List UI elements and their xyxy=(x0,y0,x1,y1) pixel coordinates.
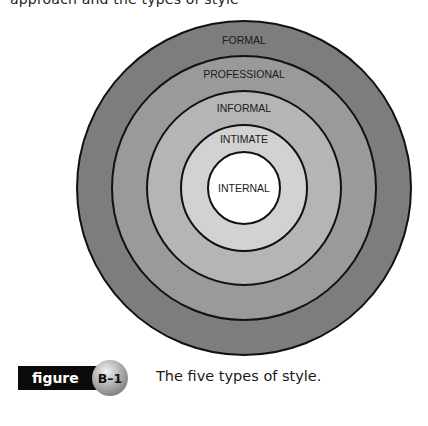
ring-label-informal: INFORMAL xyxy=(217,102,271,114)
ring-label-formal: FORMAL xyxy=(222,34,266,46)
figure-number-badge: B–1 xyxy=(92,360,128,396)
figure-number: B–1 xyxy=(98,371,122,386)
ring-label-internal: INTERNAL xyxy=(218,182,270,194)
figure-caption: The five types of style. xyxy=(156,368,321,384)
concentric-style-diagram: FORMALPROFESSIONALINFORMALINTIMATEINTERN… xyxy=(0,0,428,360)
ring-label-intimate: INTIMATE xyxy=(220,133,268,145)
ring-label-professional: PROFESSIONAL xyxy=(203,68,285,80)
